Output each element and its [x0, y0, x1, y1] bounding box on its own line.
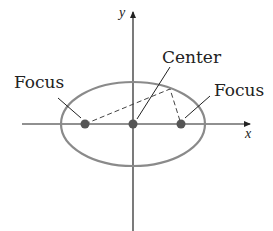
center-leader	[137, 67, 170, 119]
focus-right-leader	[185, 96, 210, 118]
center-label: Center	[162, 49, 221, 66]
diagram-graphics	[0, 0, 273, 231]
ellipse-diagram: Center Focus Focus x y	[0, 0, 273, 231]
focus-right-label: Focus	[214, 82, 264, 99]
center-point	[129, 120, 138, 129]
focus-right-point	[177, 120, 186, 129]
x-axis-label: x	[245, 127, 251, 141]
focus-left-point	[81, 120, 90, 129]
focus-left-label: Focus	[14, 74, 64, 91]
y-axis-label: y	[119, 6, 125, 20]
